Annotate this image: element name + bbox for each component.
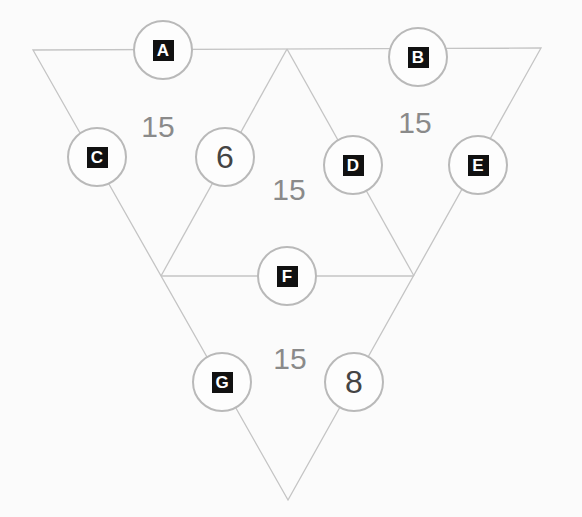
sum-label-center: 15 bbox=[272, 173, 305, 207]
node-b[interactable]: B bbox=[388, 27, 448, 87]
sum-label-top-left: 15 bbox=[141, 110, 174, 144]
node-g[interactable]: G bbox=[192, 352, 252, 412]
node-label: C bbox=[87, 147, 108, 168]
node-value: 8 bbox=[345, 364, 363, 401]
node-f[interactable]: F bbox=[257, 246, 317, 306]
node-c[interactable]: C bbox=[67, 127, 127, 187]
node-label: B bbox=[408, 47, 429, 68]
sum-label-bottom: 15 bbox=[273, 342, 306, 376]
node-label: G bbox=[212, 372, 233, 393]
node-label: A bbox=[153, 40, 174, 61]
node-a[interactable]: A bbox=[133, 20, 193, 80]
node-given-8: 8 bbox=[324, 352, 384, 412]
node-value: 6 bbox=[216, 139, 234, 176]
node-given-6: 6 bbox=[195, 127, 255, 187]
node-d[interactable]: D bbox=[323, 135, 383, 195]
node-e[interactable]: E bbox=[448, 135, 508, 195]
node-label: F bbox=[277, 266, 298, 287]
sum-label-top-right: 15 bbox=[398, 106, 431, 140]
node-label: E bbox=[468, 155, 489, 176]
node-label: D bbox=[343, 155, 364, 176]
